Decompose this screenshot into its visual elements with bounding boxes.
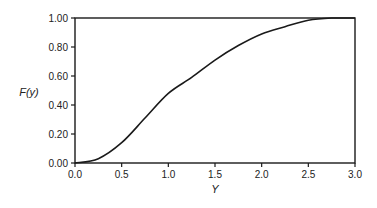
x-tick-label: 2.5: [301, 169, 315, 180]
plot-frame: [75, 18, 355, 163]
cdf-chart: 0.00.51.01.52.02.53.0 0.000.200.400.600.…: [0, 0, 377, 208]
y-axis-ticks: 0.000.200.400.600.801.00: [49, 13, 75, 169]
x-tick-label: 0.5: [115, 169, 129, 180]
y-tick-label: 0.60: [49, 71, 69, 82]
y-tick-label: 0.40: [49, 100, 69, 111]
y-tick-label: 0.20: [49, 129, 69, 140]
plot-border: [75, 18, 355, 163]
x-axis-label: Y: [211, 183, 219, 195]
y-axis-label: F(y): [19, 86, 39, 98]
y-tick-label: 1.00: [49, 13, 69, 24]
x-axis-ticks: 0.00.51.01.52.02.53.0: [68, 163, 362, 180]
cdf-curve: [75, 18, 355, 163]
x-tick-label: 1.5: [208, 169, 222, 180]
x-tick-label: 0.0: [68, 169, 82, 180]
x-tick-label: 3.0: [348, 169, 362, 180]
x-tick-label: 2.0: [255, 169, 269, 180]
y-tick-label: 0.00: [49, 158, 69, 169]
y-tick-label: 0.80: [49, 42, 69, 53]
x-tick-label: 1.0: [161, 169, 175, 180]
